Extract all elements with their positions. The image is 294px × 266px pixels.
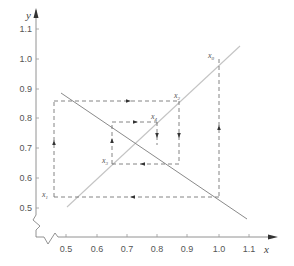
- arrow-left-icon: [130, 195, 135, 199]
- x-axis: [36, 233, 278, 244]
- point-labels: x0 x1 x2 x3 x4: [41, 51, 215, 200]
- y-tick-label: 1.0: [19, 54, 32, 64]
- axis-break-icon: [36, 233, 58, 244]
- x-tick-label: 0.8: [151, 244, 164, 254]
- x-tick-label: 0.7: [121, 244, 134, 254]
- arrow-right-icon: [133, 120, 138, 124]
- x-tick-label: 1.1: [243, 244, 256, 254]
- arrow-left-icon: [140, 162, 145, 166]
- y-tick-labels: 1.1 1.0 0.9 0.8 0.7 0.6 0.5: [19, 24, 32, 213]
- y-tick-label: 0.7: [19, 143, 32, 153]
- x-tick-label: 1.0: [213, 244, 226, 254]
- arrow-down-icon: [177, 133, 181, 138]
- y-tick-label: 1.1: [19, 24, 32, 34]
- arrow-down-icon: [155, 133, 159, 138]
- cobweb-path: [54, 59, 219, 197]
- y-axis-arrow-icon: [34, 8, 39, 18]
- x-tick-labels: 0.5 0.6 0.7 0.8 0.9 1.0 1.1: [60, 244, 256, 254]
- point-label-x0: x0: [207, 51, 215, 61]
- y-tick-label: 0.6: [19, 173, 32, 183]
- point-label-x4: x4: [150, 112, 158, 122]
- y-tick-label: 0.5: [19, 203, 32, 213]
- x-tick-label: 0.6: [91, 244, 104, 254]
- diagonal-line: [67, 46, 240, 207]
- y-axis: [33, 8, 40, 237]
- arrow-up-icon: [217, 125, 221, 130]
- point-label-x2: x2: [173, 91, 181, 101]
- arrow-up-icon: [110, 138, 114, 143]
- axis-break-icon: [33, 215, 40, 237]
- arrow-up-icon: [52, 140, 56, 145]
- x-tick-label: 0.9: [181, 244, 194, 254]
- y-axis-title: y: [25, 9, 31, 21]
- y-tick-label: 0.9: [19, 84, 32, 94]
- point-label-x3: x3: [101, 156, 109, 166]
- x-axis-title: x: [263, 243, 269, 255]
- arrow-right-icon: [126, 99, 131, 103]
- point-label-x1: x1: [41, 190, 48, 200]
- cobweb-diagram: 1.1 1.0 0.9 0.8 0.7 0.6 0.5 0.5 0.6 0.7 …: [0, 0, 294, 266]
- x-tick-label: 0.5: [60, 244, 73, 254]
- x-axis-arrow-icon: [268, 235, 278, 240]
- y-tick-label: 0.8: [19, 113, 32, 123]
